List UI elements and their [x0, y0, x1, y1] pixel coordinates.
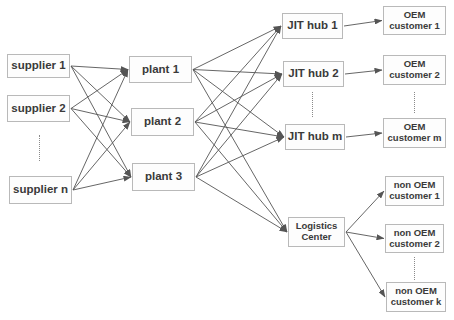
edge-lc-to-nk: [346, 232, 385, 297]
node-non-oem-customer-n2: non OEM customer 2: [385, 224, 444, 253]
node-jit-hub-j2: JIT hub 2: [283, 61, 344, 87]
node-label: supplier 2: [11, 102, 65, 115]
edge-j2-to-o2: [345, 70, 382, 74]
edge-s2-to-p3: [71, 109, 131, 178]
edge-p3-to-jm: [196, 137, 284, 177]
node-logistics-center-lc: Logistics Center: [288, 217, 345, 247]
node-supplier-s1: supplier 1: [7, 54, 70, 78]
non-oem-customer-ellipsis: [414, 257, 415, 280]
node-label: Logistics Center: [296, 221, 338, 243]
node-non-oem-customer-n1: non OEM customer 1: [385, 176, 444, 206]
node-label: JIT hub m: [288, 130, 342, 143]
edges-layer: [0, 0, 454, 320]
edge-p2-to-lc: [195, 122, 287, 232]
node-plant-p2: plant 2: [131, 108, 194, 136]
node-supplier-sn: supplier n: [9, 176, 72, 204]
node-oem-customer-o1: OEM customer 1: [383, 6, 446, 35]
node-plant-p3: plant 3: [132, 163, 195, 191]
edge-jm-to-om: [346, 133, 382, 137]
node-label: plant 2: [144, 115, 181, 128]
node-label: JIT hub 2: [288, 67, 338, 80]
edge-sn-to-p2: [73, 122, 130, 190]
node-label: OEM customer 2: [389, 59, 440, 81]
node-label: OEM customer m: [388, 122, 442, 144]
edge-j1-to-o1: [344, 21, 382, 27]
node-label: supplier n: [13, 183, 68, 196]
node-oem-customer-om: OEM customer m: [383, 118, 446, 148]
node-label: non OEM customer 1: [389, 180, 440, 202]
node-label: OEM customer 1: [389, 10, 440, 32]
edge-lc-to-n1: [346, 191, 384, 232]
node-label: plant 1: [142, 63, 179, 76]
node-label: supplier 1: [11, 59, 65, 72]
node-supplier-s2: supplier 2: [7, 95, 70, 122]
node-jit-hub-jm: JIT hub m: [285, 124, 345, 150]
node-plant-p1: plant 1: [129, 56, 192, 83]
oem-customer-ellipsis: [414, 92, 415, 113]
edge-s1-to-p1: [71, 66, 128, 70]
node-non-oem-customer-nk: non OEM customer k: [386, 282, 446, 312]
node-label: plant 3: [145, 170, 182, 183]
supplier-ellipsis: [39, 135, 40, 161]
edge-p1-to-jm: [193, 70, 284, 138]
jit-hub-ellipsis: [312, 92, 313, 117]
edge-p3-to-j1: [196, 26, 281, 177]
node-label: non OEM customer 2: [389, 228, 440, 250]
edge-p1-to-lc: [193, 70, 287, 233]
edge-lc-to-n2: [346, 232, 384, 239]
node-label: non OEM customer k: [391, 286, 442, 308]
supply-chain-diagram: supplier 1supplier 2supplier nplant 1pla…: [0, 0, 454, 320]
edge-p3-to-lc: [196, 177, 287, 232]
edge-p1-to-j1: [193, 26, 281, 70]
node-label: JIT hub 1: [287, 19, 337, 32]
edge-p1-to-j2: [193, 70, 282, 75]
edge-sn-to-p1: [73, 70, 128, 191]
node-oem-customer-o2: OEM customer 2: [383, 55, 446, 85]
edge-p2-to-j1: [195, 26, 281, 122]
node-jit-hub-j1: JIT hub 1: [282, 13, 343, 39]
